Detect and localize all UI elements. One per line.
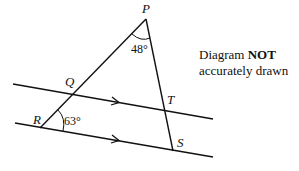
angle-label-R: 63° <box>64 114 81 128</box>
label-P: P <box>141 1 150 16</box>
line-PR <box>40 19 146 128</box>
angle-arc-R <box>58 110 64 131</box>
label-R: R <box>32 112 41 127</box>
diagram-note: Diagram NOT accurately drawn <box>199 47 288 79</box>
angle-arc-P <box>132 34 150 39</box>
label-Q: Q <box>65 74 75 89</box>
note-line2: accurately drawn <box>199 63 288 78</box>
note-bold: NOT <box>248 47 276 62</box>
angle-label-P: 48° <box>131 42 148 56</box>
upper-parallel-line <box>13 84 213 119</box>
label-T: T <box>167 92 175 107</box>
geometry-diagram: P Q R T S 48° 63° <box>0 0 299 171</box>
note-prefix: Diagram <box>199 47 248 62</box>
label-S: S <box>177 135 184 150</box>
line-PS <box>146 19 173 151</box>
